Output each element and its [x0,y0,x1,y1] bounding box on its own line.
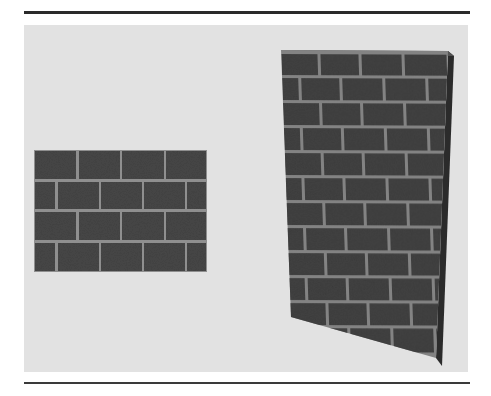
top-rule [24,11,470,14]
bottom-rule [24,382,470,384]
wall-render [270,40,460,370]
brick-texture-image [34,150,207,272]
flat-brick-texture [34,150,207,272]
textured-wall-3d [270,40,460,370]
